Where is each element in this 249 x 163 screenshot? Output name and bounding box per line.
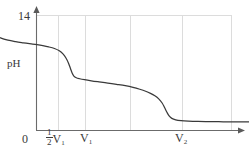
y-axis-title: pH [7, 58, 20, 69]
y-axis-arrowhead [33, 6, 39, 13]
v2-variable: V [175, 131, 184, 145]
half-v1-variable: V [53, 132, 62, 146]
ph-titration-curve [0, 22, 249, 122]
x-axis-v2-label: V2 [175, 132, 187, 144]
x-axis-origin-label: 0 [22, 133, 28, 145]
grid-lines [36, 16, 232, 131]
chart-svg [0, 0, 249, 163]
half-v1-subscript: 1 [61, 139, 65, 147]
v1-subscript: 1 [89, 138, 93, 146]
y-axis-max-label: 14 [18, 10, 30, 22]
x-axis-half-v1-label: 12V1 [46, 128, 65, 148]
v2-subscript: 2 [184, 138, 188, 146]
v1-variable: V [80, 131, 89, 145]
x-axis-arrowhead [238, 127, 245, 133]
axes [36, 11, 241, 131]
titration-curve-figure: 14 pH 0 12V1 V1 V2 [0, 0, 249, 163]
x-axis-v1-label: V1 [80, 132, 92, 144]
